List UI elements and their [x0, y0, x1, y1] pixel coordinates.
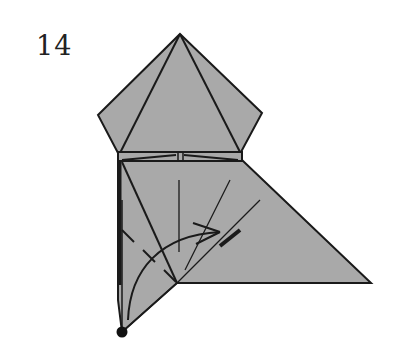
- reference-dot: [117, 327, 128, 338]
- origami-diagram: [0, 0, 394, 350]
- folded-band: [118, 152, 242, 161]
- pentagon-head: [98, 34, 262, 153]
- lower-body: [118, 160, 371, 332]
